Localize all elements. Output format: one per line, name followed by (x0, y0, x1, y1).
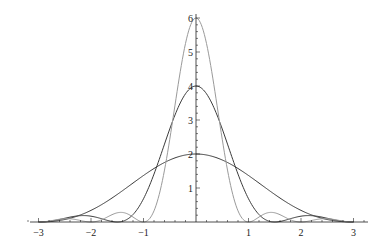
y-tick-label: 3 (188, 115, 193, 126)
x-tick-label: 3 (351, 227, 356, 238)
x-tick-label: 2 (299, 227, 304, 238)
y-tick-label: 4 (188, 81, 193, 92)
y-tick-label: 1 (188, 183, 193, 194)
y-tick-label: 6 (188, 13, 193, 24)
y-tick-label: 2 (188, 149, 193, 160)
x-tick-label: −2 (86, 227, 97, 238)
tick-labels: −3−2−1123123456 (33, 13, 356, 239)
y-tick-label: 5 (188, 47, 193, 58)
sinc-squared-chart: −3−2−1123123456 (0, 0, 388, 250)
x-tick-label: −3 (33, 227, 44, 238)
x-tick-label: −1 (138, 227, 149, 238)
x-tick-label: 1 (246, 227, 251, 238)
axes (30, 14, 368, 222)
